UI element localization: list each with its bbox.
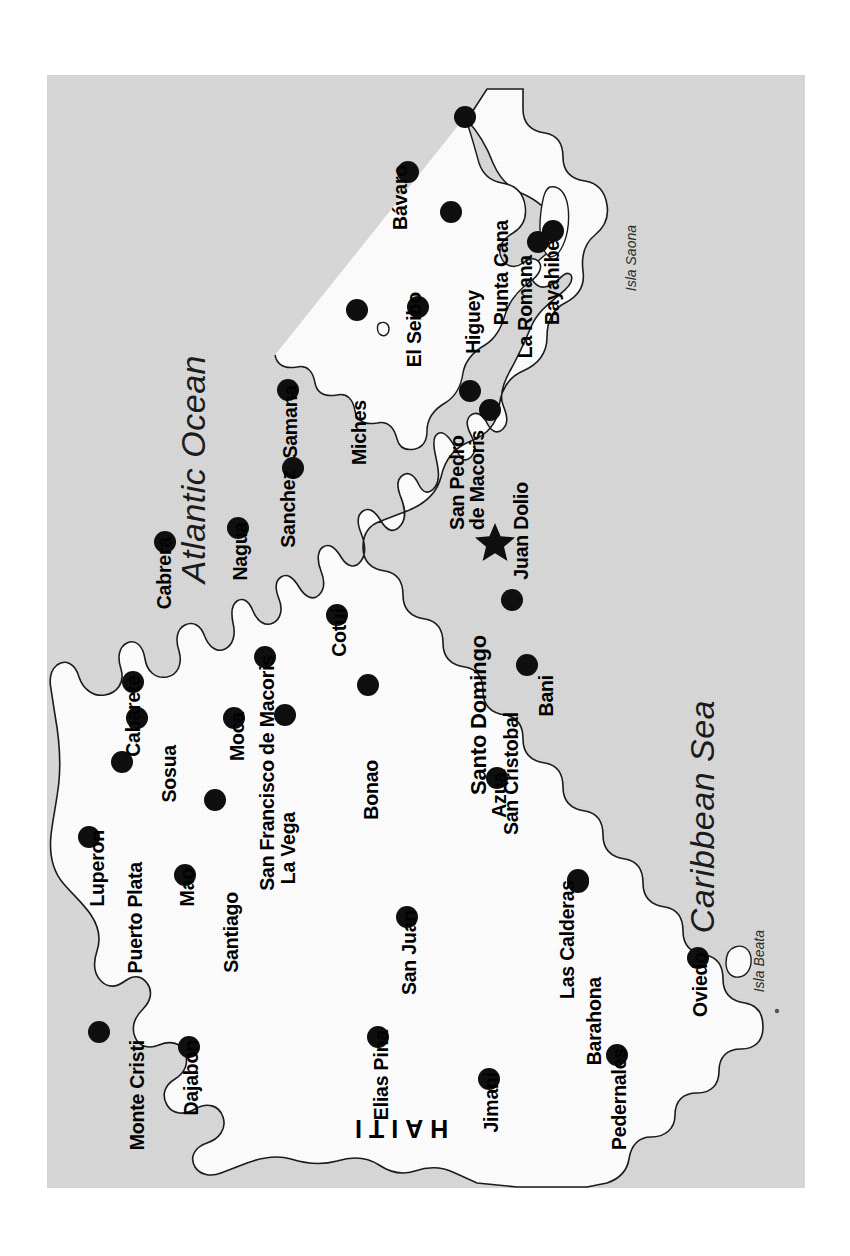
city-label-la-romana: La Romana	[516, 255, 536, 358]
city-label-monte-cristi: Monte Cristi	[128, 1040, 148, 1150]
city-label-puerto-plata: Puerto Plata	[126, 862, 146, 973]
city-dot-bonao[interactable]	[357, 674, 379, 696]
city-label-san-juan: San Juan	[400, 910, 420, 995]
city-label-bonao: Bonao	[362, 760, 382, 820]
tiny-islet	[775, 1009, 779, 1013]
city-label-el-seibo: El Seibo	[405, 292, 425, 367]
country-label-haiti: HAITI	[348, 1115, 448, 1141]
city-dot-san-cristobal[interactable]	[501, 589, 523, 611]
city-label-cabrera: Cabrera	[155, 537, 175, 609]
city-label-san-pedro-de-macoris: San Pedro de Macoris	[447, 430, 488, 530]
city-label-la-vega: La Vega	[279, 812, 299, 884]
city-label-cotui: Cotui	[330, 608, 350, 657]
city-label-nagua: Nagua	[231, 522, 251, 581]
city-label-luperon: Luperon	[88, 830, 108, 907]
city-label-moca: Moca	[228, 712, 248, 761]
city-label-juan-dolio: Juan Dolio	[512, 482, 532, 580]
city-dot-san-pedro-de-macoris[interactable]	[459, 380, 481, 402]
water-label-atlantic-ocean: Atlantic Ocean	[176, 355, 211, 583]
water-label-caribbean-sea: Caribbean Sea	[685, 700, 720, 933]
city-dot-higuey[interactable]	[440, 201, 462, 223]
city-label-punta-cana: Punta Cana	[492, 220, 512, 325]
map-plate: BávaroPunta CanaEl SeiboHigueyLa RomanaB…	[47, 75, 805, 1188]
city-dot-monte-cristi[interactable]	[88, 1021, 110, 1043]
city-label-bavaro: Bávaro	[391, 165, 411, 230]
city-label-elias-pina: Elias Pina	[372, 1030, 392, 1120]
city-label-mao: Mao	[178, 868, 198, 906]
city-label-oviedo: Oviedo	[691, 952, 711, 1017]
city-label-miches: Miches	[350, 400, 370, 465]
city-label-cabarete: Cabarete	[124, 675, 144, 757]
city-label-las-calderas: Las Calderas	[558, 880, 578, 999]
city-label-higuey: Higuey	[464, 290, 484, 354]
city-label-san-francisco-de-macoris: San Francisco de Macoris	[258, 655, 278, 891]
capital-label-santo-domingo: Santo Domingo	[468, 635, 490, 795]
dominican-republic-geography	[47, 75, 805, 1188]
city-label-dajabon: Dajabon	[182, 1040, 202, 1116]
city-label-samana: Samana	[281, 385, 301, 459]
city-label-sanchez: Sanchez	[279, 470, 299, 548]
city-label-barahona: Barahona	[585, 977, 605, 1065]
city-dot-miches[interactable]	[346, 299, 368, 321]
city-label-jimani: Jimani	[482, 1072, 502, 1133]
city-dot-bayahibe[interactable]	[542, 220, 564, 242]
city-label-sosua: Sosua	[160, 745, 180, 803]
city-label-santiago: Santiago	[222, 892, 242, 973]
city-dot-juan-dolio[interactable]	[479, 399, 501, 421]
island-label-isla-saona: Isla Saona	[624, 225, 638, 291]
city-label-pedernales: Pedernales	[610, 1048, 630, 1150]
isla-beata-shape	[726, 946, 751, 977]
small-islet-east	[377, 322, 389, 335]
city-label-bayahibe: Bayahibe	[543, 240, 563, 325]
city-label-bani: Bani	[537, 675, 557, 716]
city-dot-bani[interactable]	[516, 654, 538, 676]
map-page: BávaroPunta CanaEl SeiboHigueyLa RomanaB…	[0, 0, 850, 850]
city-dot-santiago[interactable]	[204, 789, 226, 811]
city-label-san-cristobal: San Cristobal	[502, 712, 522, 835]
island-label-isla-beata: Isla Beata	[752, 930, 766, 992]
city-dot-punta-cana[interactable]	[454, 106, 476, 128]
